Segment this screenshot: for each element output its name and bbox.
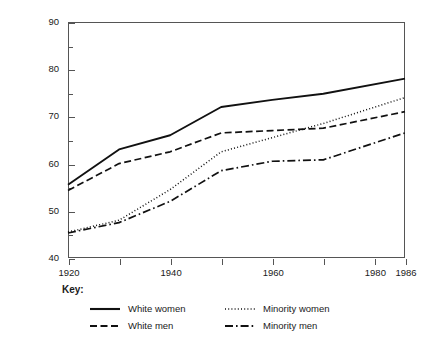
x-tick-label: 1986 bbox=[386, 267, 426, 278]
x-tick-label: 1920 bbox=[49, 267, 89, 278]
legend-entry-minority-women: Minority women bbox=[225, 303, 330, 314]
tick-mark bbox=[406, 259, 407, 265]
legend-line-sample bbox=[225, 321, 255, 331]
legend-label: White women bbox=[128, 303, 186, 314]
series-line-white-men bbox=[68, 112, 405, 191]
legend-title: Key: bbox=[62, 284, 412, 295]
legend-label: White men bbox=[128, 320, 173, 331]
x-tick-label: 1940 bbox=[151, 267, 191, 278]
series-line-minority-men bbox=[68, 133, 405, 233]
tick-mark bbox=[324, 259, 325, 265]
legend-entry-minority-men: Minority men bbox=[225, 320, 317, 331]
legend-entries: White womenMinority womenWhite menMinori… bbox=[90, 300, 412, 334]
legend-row: White menMinority men bbox=[90, 317, 412, 334]
y-tick-label: 50 bbox=[48, 205, 59, 216]
y-tick-label: 60 bbox=[48, 158, 59, 169]
legend-entry-white-women: White women bbox=[90, 303, 225, 314]
x-tick-label: 1960 bbox=[253, 267, 293, 278]
legend-label: Minority women bbox=[263, 303, 330, 314]
y-tick-label: 70 bbox=[48, 110, 59, 121]
legend-label: Minority men bbox=[263, 320, 317, 331]
legend-entry-white-men: White men bbox=[90, 320, 225, 331]
y-tick-label: 90 bbox=[48, 16, 59, 27]
tick-mark bbox=[69, 259, 70, 265]
legend: Key: White womenMinority womenWhite menM… bbox=[62, 284, 412, 334]
y-tick-label: 40 bbox=[48, 252, 59, 263]
tick-mark bbox=[171, 259, 172, 265]
legend-line-sample bbox=[90, 321, 120, 331]
tick-mark bbox=[375, 259, 376, 265]
y-tick-label: 80 bbox=[48, 63, 59, 74]
legend-line-sample bbox=[90, 304, 120, 314]
life-expectancy-line-chart: 405060708090 19201940196019801986 Life E… bbox=[0, 0, 429, 342]
series-lines bbox=[68, 22, 405, 258]
legend-row: White womenMinority women bbox=[90, 300, 412, 317]
tick-mark bbox=[273, 259, 274, 265]
legend-line-sample bbox=[225, 304, 255, 314]
tick-mark bbox=[222, 259, 223, 265]
tick-mark bbox=[120, 259, 121, 265]
